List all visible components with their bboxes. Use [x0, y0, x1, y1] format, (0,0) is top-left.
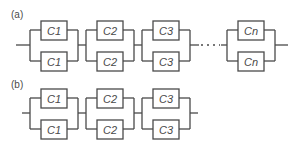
parallel-group-b-3: C3 C3 — [142, 89, 190, 139]
capacitor-label: Cn — [244, 56, 258, 68]
parallel-group-a-1: C1 C1 — [30, 21, 78, 71]
parallel-group-a-n: Cn Cn — [227, 21, 275, 71]
parallel-group-b-1: C1 C1 — [30, 89, 78, 139]
panel-label-b: (b) — [11, 79, 23, 90]
capacitor-label: C2 — [103, 25, 117, 37]
capacitor-label: C1 — [47, 93, 61, 105]
capacitor-label: C1 — [47, 56, 61, 68]
capacitor-label: C2 — [103, 93, 117, 105]
capacitor-label: C3 — [159, 56, 174, 68]
panel-b: C1 C1 C2 C2 C3 C3 — [22, 89, 198, 139]
capacitor-label: C2 — [103, 124, 117, 136]
capacitor-label: C1 — [47, 25, 61, 37]
capacitor-label: C3 — [159, 124, 174, 136]
capacitor-label: C3 — [159, 93, 174, 105]
panel-label-a: (a) — [11, 9, 23, 20]
capacitor-label: Cn — [244, 25, 258, 37]
capacitor-label: C2 — [103, 56, 117, 68]
capacitor-label: C3 — [159, 25, 174, 37]
capacitor-label: C1 — [47, 124, 61, 136]
parallel-group-a-3: C3 C3 — [142, 21, 190, 71]
parallel-group-a-2: C2 C2 — [86, 21, 134, 71]
parallel-group-b-2: C2 C2 — [86, 89, 134, 139]
panel-a: C1 C1 C2 C2 C3 C — [16, 21, 288, 71]
circuit-diagram: (a) C1 C1 C2 C2 — [0, 0, 302, 147]
